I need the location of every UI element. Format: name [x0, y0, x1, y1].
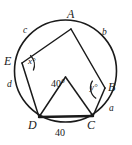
arc-label-d: d: [7, 80, 12, 90]
vertex-label-a: A: [67, 8, 74, 20]
angle-label-40-degrees: 40°: [51, 79, 65, 89]
chord-dc: [39, 116, 93, 117]
vertex-label-c: C: [87, 119, 95, 131]
arc-label-a: a: [109, 104, 114, 114]
vertex-label-d: D: [28, 119, 37, 131]
angle-label-x: x°: [28, 57, 36, 66]
arc-label-b: b: [102, 28, 107, 38]
vertex-label-e: E: [4, 55, 11, 67]
angle-label-y: y°: [90, 83, 98, 92]
vertex-label-b: B: [108, 81, 115, 93]
geometry-figure: A E B D C c b d a x° y° 40° 40: [0, 0, 132, 145]
arc-label-c: c: [23, 26, 27, 36]
geometry-drawing: [0, 0, 132, 145]
side-length-label-dc: 40: [55, 128, 65, 138]
